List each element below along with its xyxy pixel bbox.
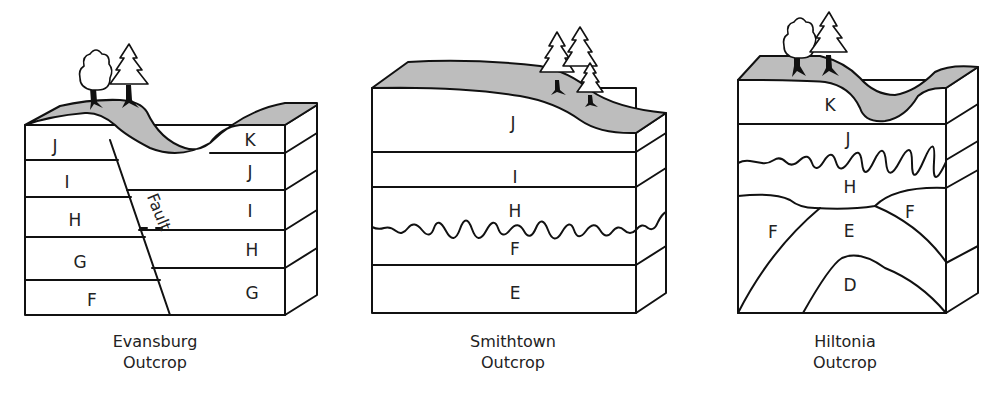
layer-label: J [246, 162, 252, 182]
layer-label: K [244, 130, 256, 150]
layer-label: I [512, 167, 517, 187]
layer-label: H [844, 177, 857, 197]
layer-label: I [64, 172, 69, 192]
layer-label: I [247, 201, 252, 221]
hiltonia-front-face [738, 80, 946, 313]
layer-label: F [87, 290, 97, 310]
caption-line: Outcrop [55, 352, 255, 373]
layer-label: K [824, 95, 836, 115]
layer-label: J [844, 129, 850, 149]
conifer-tree-icon [110, 44, 148, 108]
layer-label: D [843, 275, 856, 295]
layer-label: H [509, 201, 522, 221]
layer-label: J [509, 113, 515, 133]
layer-label: G [245, 283, 258, 303]
layer-label: F [768, 222, 778, 242]
layer-label: G [73, 252, 86, 272]
layer-label: E [510, 283, 521, 303]
caption-line: Smithtown [413, 331, 613, 352]
layer-label: E [844, 221, 855, 241]
caption-line: Evansburg [55, 331, 255, 352]
layer-label: J [51, 136, 57, 156]
smithtown-caption: Smithtown Outcrop [413, 331, 613, 373]
caption-line: Hiltonia [745, 331, 945, 352]
evansburg-outcrop: J I H G F K J I H G Fault [25, 44, 317, 315]
caption-line: Outcrop [745, 352, 945, 373]
evansburg-caption: Evansburg Outcrop [55, 331, 255, 373]
hiltonia-side-face [946, 67, 978, 313]
layer-label: H [69, 210, 82, 230]
caption-line: Outcrop [413, 352, 613, 373]
layer-label: F [905, 202, 915, 222]
hiltonia-outcrop: K J H F E F D [738, 12, 978, 313]
layer-label: F [510, 239, 520, 259]
conifer-tree-icon [563, 27, 597, 66]
smithtown-outcrop: J I H F E [372, 27, 666, 313]
hiltonia-caption: Hiltonia Outcrop [745, 331, 945, 373]
layer-label: H [246, 240, 259, 260]
